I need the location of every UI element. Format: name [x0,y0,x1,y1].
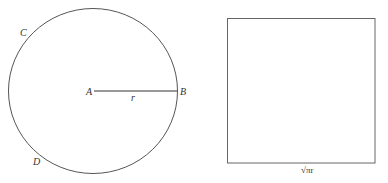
square-shape [228,19,376,164]
point-label-d: D [33,157,40,167]
point-label-a: A [86,87,92,97]
square-side-label: √πr [301,166,313,175]
figure-canvas: A B C D r √πr [0,0,388,183]
point-label-c: C [20,28,27,38]
figure-svg [0,0,388,183]
point-label-b: B [180,87,186,97]
radius-label: r [131,93,135,103]
